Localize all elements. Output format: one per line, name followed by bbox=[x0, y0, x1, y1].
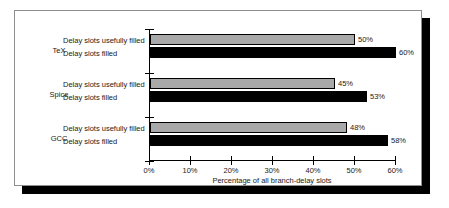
value-axis-tick bbox=[149, 156, 150, 165]
bar-value-tex-usefully-filled: 50% bbox=[358, 34, 373, 45]
value-axis-tick bbox=[272, 156, 273, 165]
value-axis-tick bbox=[190, 156, 191, 165]
figure: 0% 10% 20% 30% 40% 50% 60% Percentage of… bbox=[0, 0, 449, 208]
bar-value-gcc-usefully-filled: 48% bbox=[350, 122, 365, 133]
bar-value-spice-usefully-filled: 45% bbox=[338, 78, 353, 89]
value-axis-title: Percentage of all branch-delay slots bbox=[149, 176, 395, 186]
category-axis-tick bbox=[145, 73, 154, 74]
value-axis-tick bbox=[354, 156, 355, 165]
bar-series-label-tex-filled: Delay slots filled bbox=[63, 49, 147, 59]
value-axis-tick-label: 0% bbox=[134, 166, 164, 175]
value-axis-tick-label: 60% bbox=[380, 166, 410, 175]
value-axis-tick bbox=[395, 156, 396, 165]
bar-series-label-spice-filled: Delay slots filled bbox=[63, 93, 147, 103]
bar-value-tex-filled: 60% bbox=[399, 47, 414, 58]
category-axis-tick bbox=[145, 117, 154, 118]
category-axis-tick bbox=[145, 29, 154, 30]
value-axis-tick-label: 50% bbox=[339, 166, 369, 175]
value-axis-tick bbox=[231, 156, 232, 165]
value-axis-tick-label: 40% bbox=[298, 166, 328, 175]
bar-tex-filled[interactable] bbox=[150, 47, 396, 58]
bar-series-label-tex-usefully-filled: Delay slots usefully filled bbox=[63, 36, 147, 46]
plot-area: 0% 10% 20% 30% 40% 50% 60% Percentage of… bbox=[15, 11, 423, 187]
bar-spice-usefully-filled[interactable] bbox=[150, 78, 335, 89]
bar-series-label-spice-usefully-filled: Delay slots usefully filled bbox=[63, 80, 147, 90]
value-axis-tick-label: 30% bbox=[257, 166, 287, 175]
bar-gcc-filled[interactable] bbox=[150, 135, 388, 146]
bar-spice-filled[interactable] bbox=[150, 91, 367, 102]
bar-series-label-gcc-usefully-filled: Delay slots usefully filled bbox=[63, 124, 147, 134]
value-axis-tick bbox=[313, 156, 314, 165]
value-axis-tick-label: 10% bbox=[175, 166, 205, 175]
bar-value-spice-filled: 53% bbox=[370, 91, 385, 102]
bar-value-gcc-filled: 58% bbox=[391, 135, 406, 146]
bar-gcc-usefully-filled[interactable] bbox=[150, 122, 347, 133]
value-axis-tick-label: 20% bbox=[216, 166, 246, 175]
bar-tex-usefully-filled[interactable] bbox=[150, 34, 355, 45]
bar-series-label-gcc-filled: Delay slots filled bbox=[63, 137, 147, 147]
chart-frame: 0% 10% 20% 30% 40% 50% 60% Percentage of… bbox=[14, 10, 422, 186]
